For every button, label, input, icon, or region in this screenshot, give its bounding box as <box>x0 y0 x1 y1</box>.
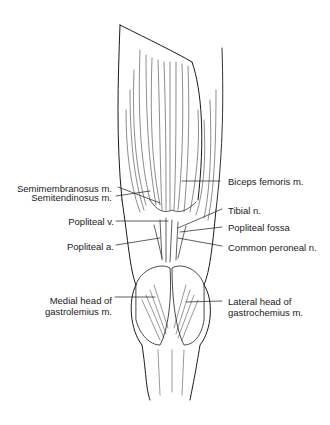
label-semitendinosus: Semitendinosus m. <box>31 192 112 203</box>
medial-gastrocnemius <box>136 266 171 345</box>
label-tibial-nerve: Tibial n. <box>228 205 261 216</box>
label-popliteal-artery: Popliteal a. <box>67 241 114 252</box>
label-medial-head-line1: Medial head of <box>50 295 112 306</box>
thigh-outline <box>118 25 122 200</box>
label-lateral-head-line2: gastrochemius m. <box>228 307 303 318</box>
label-popliteal-fossa: Popliteal fossa <box>228 222 290 233</box>
lateral-gastrocnemius <box>172 266 204 345</box>
label-medial-head-line2: gastrolemius m. <box>45 306 112 317</box>
leader-lines <box>115 181 222 302</box>
label-lateral-head-line1: Lateral head of <box>228 296 291 307</box>
label-biceps-femoris: Biceps femoris m. <box>228 176 304 187</box>
label-common-peroneal: Common peroneal n. <box>228 242 317 253</box>
label-popliteal-vein: Popliteal v. <box>68 216 114 227</box>
knee-anatomy-illustration <box>0 0 330 425</box>
